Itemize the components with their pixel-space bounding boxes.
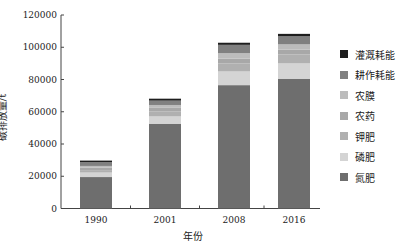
legend-item-tillage: 耕作耗能 xyxy=(340,65,395,86)
x-tick-label: 1990 xyxy=(85,215,108,225)
legend-swatch xyxy=(340,112,348,120)
bar-segment xyxy=(80,166,112,168)
legend-item-film: 农膜 xyxy=(340,85,395,106)
bar-segment xyxy=(218,53,250,58)
legend-swatch xyxy=(340,173,348,181)
y-tick-label: 0 xyxy=(51,204,57,214)
bar-segment xyxy=(149,116,181,123)
bar-segment xyxy=(278,63,310,78)
bar-segment xyxy=(80,161,112,162)
y-axis-label: 碳排放量/t xyxy=(0,94,9,141)
y-tick-label: 60000 xyxy=(28,107,57,117)
bar-segment xyxy=(218,45,250,53)
legend-swatch xyxy=(340,71,348,79)
bar-segment xyxy=(149,101,181,105)
bar-segment xyxy=(278,79,310,209)
bar-segment xyxy=(149,105,181,107)
bar-segment xyxy=(218,71,250,85)
bar-segment xyxy=(218,59,250,64)
bar-segment xyxy=(278,36,310,44)
bar-segment xyxy=(278,44,310,49)
legend-item-pesticide: 农药 xyxy=(340,106,395,127)
y-tick-label: 40000 xyxy=(28,139,57,149)
bar-segment xyxy=(149,107,181,111)
legend-item-irrigation: 灌溉耗能 xyxy=(340,44,395,65)
legend-swatch xyxy=(340,153,348,161)
bar-segment xyxy=(278,34,310,36)
bar-segment xyxy=(218,43,250,45)
bar-segment xyxy=(149,99,181,101)
bar-segment xyxy=(80,162,112,166)
x-tick-label: 2008 xyxy=(223,215,246,225)
x-tick-label: 2001 xyxy=(154,215,177,225)
bar-segment xyxy=(218,85,250,208)
legend: 灌溉耗能 耕作耗能 农膜 农药 钾肥 磷肥 氮肥 xyxy=(340,44,395,188)
bar-segment xyxy=(278,55,310,64)
bar-segment xyxy=(80,173,112,178)
bar-segment xyxy=(80,170,112,172)
bar-segment xyxy=(218,63,250,71)
bar-segment xyxy=(80,177,112,208)
bar-segment xyxy=(149,112,181,117)
legend-item-phosphate: 磷肥 xyxy=(340,147,395,168)
bar-segment xyxy=(278,50,310,55)
legend-item-potash: 钾肥 xyxy=(340,126,395,147)
y-tick-label: 20000 xyxy=(28,171,57,181)
bar-segment xyxy=(149,124,181,209)
x-tick-label: 2016 xyxy=(283,215,306,225)
bar-segment xyxy=(80,168,112,171)
legend-swatch xyxy=(340,50,348,58)
y-tick-label: 120000 xyxy=(23,10,58,20)
x-axis-label: 年份 xyxy=(183,228,203,243)
y-tick-label: 100000 xyxy=(23,42,58,52)
y-tick-label: 80000 xyxy=(28,75,57,85)
legend-swatch xyxy=(340,91,348,99)
legend-swatch xyxy=(340,132,348,140)
legend-item-nitrogen: 氮肥 xyxy=(340,167,395,188)
